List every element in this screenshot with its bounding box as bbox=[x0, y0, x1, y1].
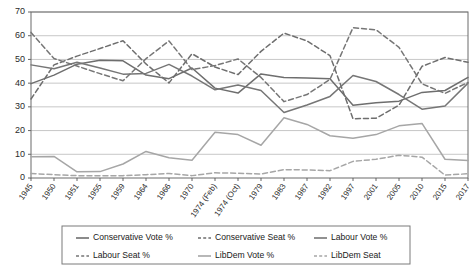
chart-canvas: 0102030405060701945195019511955195919641… bbox=[0, 0, 473, 270]
x-axis-tick-label: 1987 bbox=[293, 182, 311, 202]
y-axis-tick-label: 40 bbox=[15, 78, 25, 88]
x-axis-tick-label: 2015 bbox=[431, 182, 449, 202]
x-axis-tick-label: 2001 bbox=[362, 182, 380, 202]
y-axis-tick-label: 70 bbox=[15, 6, 25, 16]
y-axis-tick-label: 10 bbox=[15, 149, 25, 159]
x-axis-tick-label: 1950 bbox=[40, 182, 58, 202]
x-axis-tick-label: 1951 bbox=[63, 182, 81, 202]
y-axis-tick-label: 30 bbox=[15, 101, 25, 111]
x-axis-tick-label: 1983 bbox=[270, 182, 288, 202]
y-axis-tick-label: 60 bbox=[15, 30, 25, 40]
line-chart: 0102030405060701945195019511955195919641… bbox=[0, 0, 473, 270]
x-axis-tick-label: 2005 bbox=[385, 182, 403, 202]
x-axis-tick-label: 1955 bbox=[86, 182, 104, 202]
x-axis-tick-label: 1945 bbox=[17, 182, 35, 202]
legend-label-3: Labour Seat % bbox=[93, 250, 150, 260]
plot-background bbox=[31, 12, 468, 178]
y-axis-tick-label: 50 bbox=[15, 54, 25, 64]
x-axis-tick-label: 1959 bbox=[109, 182, 127, 202]
legend-label-4: LibDem Vote % bbox=[215, 250, 275, 260]
x-axis-tick-label: 2017 bbox=[454, 182, 472, 202]
x-axis-tick-label: 1970 bbox=[178, 182, 196, 202]
legend-label-2: Labour Vote % bbox=[331, 232, 388, 242]
x-axis-tick-label: 1997 bbox=[339, 182, 357, 202]
y-axis-tick-label: 0 bbox=[20, 172, 25, 182]
legend-label-5: LibDem Seat bbox=[331, 250, 381, 260]
legend-label-1: Conservative Seat % bbox=[215, 232, 296, 242]
legend-label-0: Conservative Vote % bbox=[93, 232, 173, 242]
x-axis-tick-label: 2010 bbox=[408, 182, 426, 202]
x-axis-tick-label: 1964 bbox=[132, 182, 150, 202]
y-axis-tick-label: 20 bbox=[15, 125, 25, 135]
x-axis-tick-label: 1979 bbox=[247, 182, 265, 202]
x-axis-tick-label: 1966 bbox=[155, 182, 173, 202]
x-axis-tick-label: 1992 bbox=[316, 182, 334, 202]
